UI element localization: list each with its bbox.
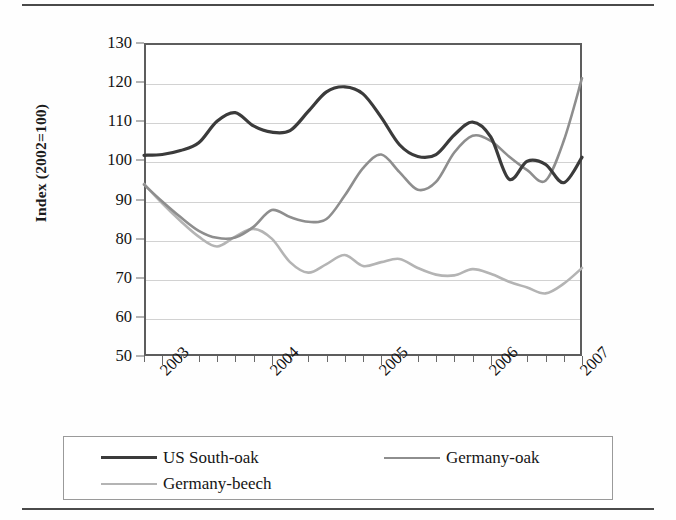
page-rule-bottom <box>22 508 654 510</box>
x-tick-mark <box>546 356 547 362</box>
series-line-germany-oak <box>144 78 582 239</box>
y-tick-label: 100 <box>62 150 132 170</box>
x-tick-mark <box>254 356 255 362</box>
legend-label-germany-beech: Germany-beech <box>163 475 272 492</box>
legend-swatch-germany-oak <box>384 457 440 459</box>
y-tick-mark <box>136 238 144 239</box>
x-tick-mark <box>564 356 565 362</box>
y-tick-mark <box>136 43 144 44</box>
legend-item-germany-beech[interactable]: Germany-beech <box>101 475 272 492</box>
plot-wrap: 5060708090100110120130 20032004200520062… <box>0 14 676 414</box>
y-tick-mark <box>136 121 144 122</box>
y-tick-mark <box>136 82 144 83</box>
y-tick-mark <box>136 277 144 278</box>
x-tick-mark <box>235 356 236 362</box>
chart-legend: US South-oak Germany-oak Germany-beech <box>63 436 613 500</box>
y-tick-label: 60 <box>62 307 132 327</box>
y-tick-label: 130 <box>62 33 132 53</box>
x-tick-mark <box>454 356 455 362</box>
x-tick-mark <box>217 356 218 362</box>
y-tick-label: 70 <box>62 268 132 288</box>
series-line-germany-beech <box>144 184 582 294</box>
line-chart-figure: Index (2002=100) 5060708090100110120130 … <box>0 14 676 504</box>
x-tick-mark <box>345 356 346 362</box>
x-tick-mark <box>473 356 474 362</box>
x-tick-mark <box>527 356 528 362</box>
x-tick-mark <box>436 356 437 362</box>
x-tick-mark <box>418 356 419 362</box>
page-rule-top <box>22 4 654 6</box>
y-axis-tick-labels: 5060708090100110120130 <box>0 43 144 356</box>
y-tick-label: 80 <box>62 229 132 249</box>
x-tick-mark <box>363 356 364 362</box>
y-tick-label: 90 <box>62 190 132 210</box>
y-tick-mark <box>136 199 144 200</box>
x-tick-mark <box>199 356 200 362</box>
legend-swatch-us-south-oak <box>101 456 157 459</box>
y-tick-label: 120 <box>62 72 132 92</box>
x-tick-mark <box>144 356 145 362</box>
y-tick-label: 50 <box>62 346 132 366</box>
x-tick-mark <box>327 356 328 362</box>
legend-swatch-germany-beech <box>101 483 157 485</box>
legend-label-germany-oak: Germany-oak <box>446 449 539 466</box>
y-tick-mark <box>136 316 144 317</box>
figure-page: Index (2002=100) 5060708090100110120130 … <box>0 0 676 520</box>
legend-item-us-south-oak[interactable]: US South-oak <box>101 449 259 466</box>
y-tick-label: 110 <box>62 111 132 131</box>
x-tick-mark <box>308 356 309 362</box>
data-series-layer <box>144 43 582 356</box>
y-tick-mark <box>136 160 144 161</box>
y-tick-mark <box>136 356 144 357</box>
legend-item-germany-oak[interactable]: Germany-oak <box>384 449 539 466</box>
legend-label-us-south-oak: US South-oak <box>163 449 259 466</box>
